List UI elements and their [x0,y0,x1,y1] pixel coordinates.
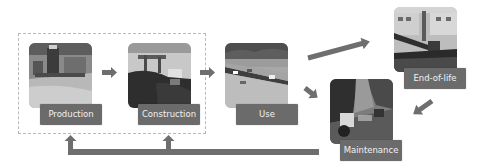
life-cycle-diagram: Production Construction [0,0,481,167]
arrow-construction-to-use [200,67,215,78]
arrow-production-to-construction [102,67,117,78]
arrow-use-to-end-of-life [306,36,371,64]
arrow-end-of-life-to-maintenance [410,96,436,119]
arrows-layer [0,0,481,167]
arrow-use-to-maintenance [301,83,321,102]
feedback-arrow-maintenance-to-production-construction [65,135,320,155]
